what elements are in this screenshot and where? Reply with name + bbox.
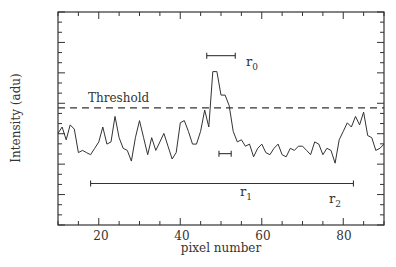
data-series bbox=[58, 72, 384, 164]
y-axis-label: Intensity (adu) bbox=[9, 73, 23, 162]
x-tick-label: 80 bbox=[336, 229, 351, 243]
r0-bar bbox=[207, 53, 236, 59]
x-tick-label: 60 bbox=[255, 229, 270, 243]
radius-bars bbox=[91, 53, 354, 187]
r0-label: r0 bbox=[246, 54, 258, 72]
x-tick-label: 20 bbox=[93, 229, 108, 243]
intensity-chart: Threshold r0 r1 r2 pixel number Intensit… bbox=[0, 0, 396, 267]
threshold-label: Threshold bbox=[88, 91, 150, 105]
intensity-line bbox=[58, 72, 384, 164]
r2-label: r2 bbox=[329, 191, 341, 209]
r1-label: r1 bbox=[240, 184, 252, 202]
r1-bar bbox=[219, 151, 231, 157]
x-tick-label: 40 bbox=[174, 229, 189, 243]
r2-bar bbox=[91, 180, 354, 186]
x-axis-label: pixel number bbox=[181, 241, 262, 255]
